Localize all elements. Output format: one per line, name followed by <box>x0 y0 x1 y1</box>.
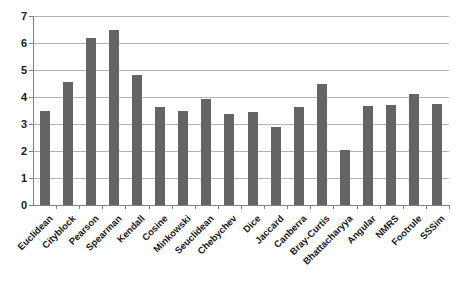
bar-jaccard <box>271 127 281 205</box>
y-tick-label-3: 3 <box>0 119 27 130</box>
bar-angular <box>363 106 373 205</box>
bar-chebychev <box>224 114 234 205</box>
x-axis-labels: EuclideanCityblockPearsonSpearmanKendall… <box>0 209 458 295</box>
bar-spearman <box>109 30 119 206</box>
y-tick-label-2: 2 <box>0 146 27 157</box>
bar-sssim <box>432 104 442 205</box>
bar-canberra <box>294 107 304 205</box>
y-tick-label-1: 1 <box>0 173 27 184</box>
bar-footrule <box>409 94 419 205</box>
bar-euclidean <box>40 111 50 206</box>
bar-minkowski <box>178 111 188 205</box>
y-tick-label-6: 6 <box>0 38 27 49</box>
y-tick-label-5: 5 <box>0 65 27 76</box>
bar-bhattacharyya <box>340 150 350 205</box>
y-tick-mark-0 <box>29 205 33 206</box>
bar-nmrs <box>386 105 396 205</box>
bar-chart-figure: 01234567 EuclideanCityblockPearsonSpearm… <box>0 0 458 298</box>
bar-dice <box>248 112 258 205</box>
bar-cityblock <box>63 82 73 205</box>
bar-seuclidean <box>201 99 211 205</box>
bar-kendall <box>132 75 142 205</box>
y-tick-label-4: 4 <box>0 92 27 103</box>
bar-bray-curtis <box>317 84 327 205</box>
y-tick-label-7: 7 <box>0 11 27 22</box>
caption-strip <box>0 288 458 298</box>
bars-group <box>33 16 449 205</box>
bar-cosine <box>155 107 165 205</box>
bar-pearson <box>86 38 96 205</box>
